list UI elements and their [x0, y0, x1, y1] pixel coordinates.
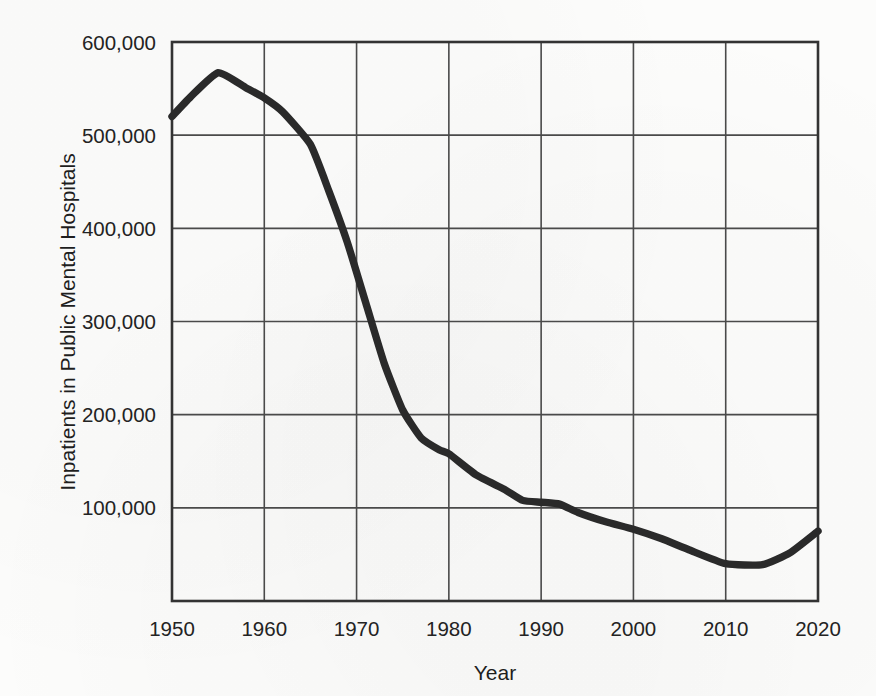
data-series-group: [172, 73, 818, 565]
y-tick-label: 300,000: [82, 310, 156, 333]
x-axis-tick-labels: 19501960197019801990200020102020: [149, 617, 841, 640]
x-axis-title: Year: [474, 661, 516, 684]
gridlines: [172, 42, 818, 601]
x-tick-label: 2000: [611, 617, 657, 640]
x-tick-label: 1980: [426, 617, 472, 640]
x-tick-label: 1990: [518, 617, 564, 640]
y-axis-tick-labels: 100,000200,000300,000400,000500,000600,0…: [82, 31, 156, 520]
line-chart: 100,000200,000300,000400,000500,000600,0…: [0, 0, 876, 696]
y-tick-label: 400,000: [82, 217, 156, 240]
x-tick-label: 2020: [795, 617, 841, 640]
chart-figure: 100,000200,000300,000400,000500,000600,0…: [0, 0, 876, 696]
x-tick-label: 2010: [703, 617, 749, 640]
y-tick-label: 600,000: [82, 31, 156, 54]
data-line: [172, 73, 818, 565]
y-tick-label: 200,000: [82, 403, 156, 426]
y-tick-label: 500,000: [82, 124, 156, 147]
x-tick-label: 1970: [334, 617, 380, 640]
x-tick-label: 1950: [149, 617, 195, 640]
y-axis-title: Inpatients in Public Mental Hospitals: [56, 153, 79, 490]
x-tick-label: 1960: [241, 617, 287, 640]
y-tick-label: 100,000: [82, 496, 156, 519]
